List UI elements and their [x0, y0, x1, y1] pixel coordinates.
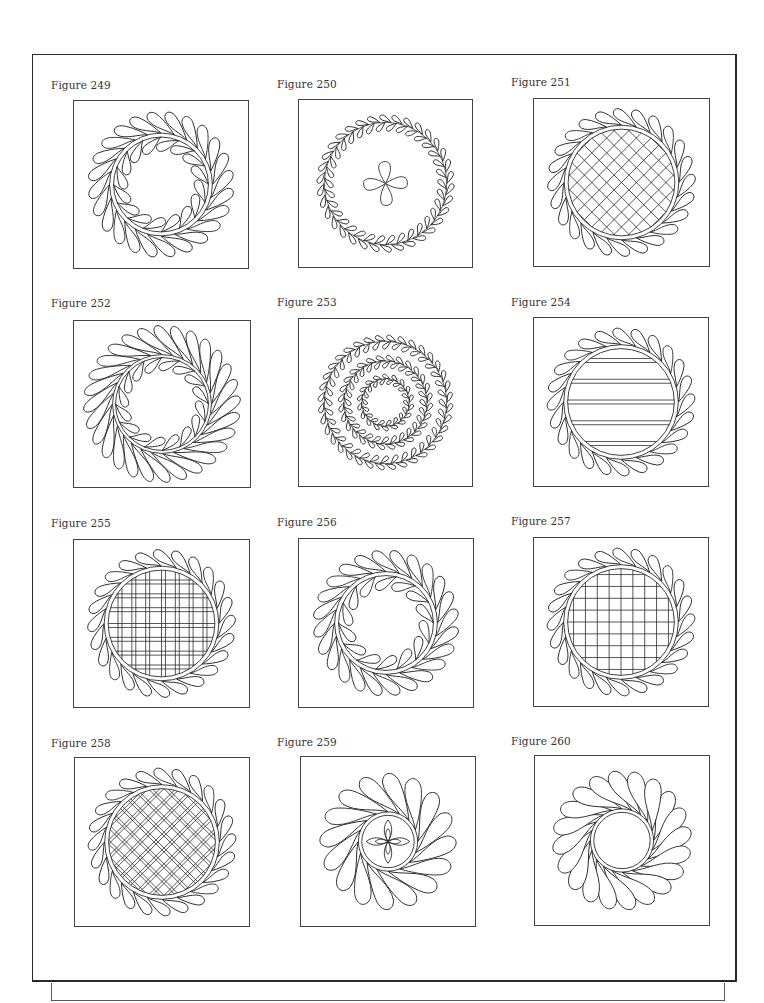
figure-252-drawing	[73, 320, 251, 488]
figure-257-drawing	[533, 537, 709, 707]
figure-259-drawing	[300, 756, 476, 927]
figure-label: Figure 256	[277, 516, 337, 528]
figure-254-drawing	[533, 317, 709, 487]
figure-250-drawing	[298, 99, 473, 268]
page-underframe	[51, 983, 725, 1001]
figure-258-drawing	[74, 757, 250, 927]
figure-label: Figure 249	[51, 79, 111, 91]
figure-label: Figure 254	[511, 296, 571, 308]
figure-249-drawing	[73, 100, 249, 269]
figure-label: Figure 253	[277, 296, 337, 308]
figure-label: Figure 255	[51, 517, 111, 529]
figure-256-drawing	[298, 538, 474, 708]
figure-label: Figure 258	[51, 737, 111, 749]
figure-label: Figure 257	[511, 515, 571, 527]
figure-label: Figure 252	[51, 297, 111, 309]
figure-label: Figure 259	[277, 736, 337, 748]
figure-label: Figure 250	[277, 78, 337, 90]
figure-255-drawing	[73, 539, 250, 708]
figure-251-drawing	[533, 98, 710, 267]
figure-253-drawing	[298, 318, 473, 487]
figure-260-drawing	[534, 755, 710, 926]
figure-label: Figure 251	[511, 76, 571, 88]
figure-label: Figure 260	[511, 735, 571, 747]
